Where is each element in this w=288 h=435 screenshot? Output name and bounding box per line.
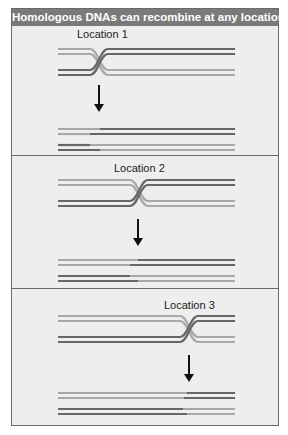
figure-title: Homologous DNAs can recombine at any loc…	[12, 9, 278, 26]
recombination-figure: Homologous DNAs can recombine at any loc…	[11, 8, 279, 426]
recombination-diagram-1	[12, 26, 280, 155]
panel-location-1: Location 1	[12, 26, 278, 155]
panel-location-3: Location 3	[12, 288, 278, 427]
panel-location-2: Location 2	[12, 155, 278, 288]
recombination-diagram-2	[12, 156, 280, 289]
recombination-diagram-3	[12, 289, 280, 428]
